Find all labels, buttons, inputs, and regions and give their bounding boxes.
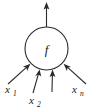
input-n-label: x n: [71, 83, 84, 98]
input-1-label-subscript: 1: [13, 89, 17, 98]
input-1-label: x 1: [4, 83, 17, 98]
diagram-canvas: f x 1 x 2 x n: [0, 0, 93, 108]
output-arrow: [44, 2, 50, 27]
input-n-label-base: x: [71, 83, 77, 95]
input-n-arrow: [64, 64, 86, 84]
input-2-label-subscript: 2: [37, 100, 41, 108]
input-1-shaft: [8, 66, 28, 84]
input-n-label-subscript: n: [80, 89, 84, 98]
function-node-diagram: f x 1 x 2 x n: [0, 0, 93, 108]
input-1-label-base: x: [4, 83, 10, 95]
input-3-arrow: [50, 70, 56, 93]
input-2-shaft: [33, 73, 39, 93]
input-n-shaft: [67, 66, 87, 84]
input-1-arrow: [8, 64, 30, 84]
input-2-label-base: x: [28, 94, 34, 106]
input-2-arrow: [33, 70, 41, 94]
input-2-label: x 2: [28, 94, 41, 108]
